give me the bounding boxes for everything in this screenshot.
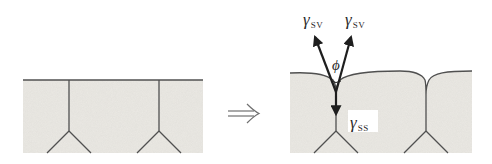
- gamma-symbol: γ: [345, 10, 352, 29]
- subscript-sv: SV: [311, 20, 324, 30]
- subscript-ss: SS: [358, 123, 369, 133]
- gamma-sv-right-label: γSV: [345, 10, 365, 30]
- panel-before: [23, 80, 203, 153]
- subscript-sv: SV: [353, 20, 366, 30]
- grooving-diagram: [0, 0, 492, 164]
- gamma-symbol: γ: [303, 10, 310, 29]
- gamma-symbol: γ: [350, 113, 357, 132]
- angle-phi-label: ϕ: [332, 57, 340, 74]
- grain-region-before: [23, 80, 203, 153]
- panel-after: [290, 37, 472, 153]
- grain-region-after: [290, 71, 472, 153]
- transition-arrow-icon: [228, 104, 259, 123]
- gamma-sv-left-label: γSV: [303, 10, 323, 30]
- gamma-ss-label: γSS: [350, 113, 369, 133]
